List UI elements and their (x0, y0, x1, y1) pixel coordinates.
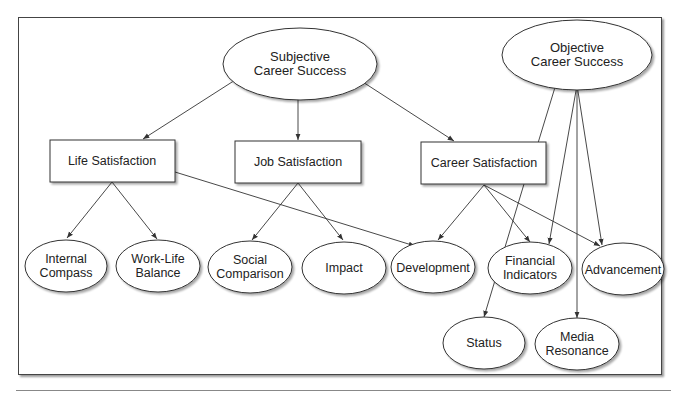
label-line: Career Success (531, 55, 623, 69)
edge-career-advancement (484, 185, 600, 246)
label-line: Comparison (216, 267, 283, 281)
label-work-life-balance: Work-Life Balance (131, 252, 184, 280)
label-social-comparison: Social Comparison (216, 253, 283, 281)
edge-job-social (252, 183, 298, 240)
label-line: Media (545, 330, 608, 344)
label-job-satisfaction: Job Satisfaction (254, 155, 342, 169)
edge-subjective-life (143, 75, 243, 139)
label-media-resonance: Media Resonance (545, 330, 608, 358)
label-subjective-career-success: Subjective Career Success (254, 50, 346, 78)
label-line: Internal (40, 252, 93, 266)
edge-career-development (438, 185, 484, 240)
edge-life-internal (67, 182, 112, 238)
edge-objective-financial (549, 85, 577, 244)
edge-objective-status-a (538, 84, 556, 143)
label-life-satisfaction: Life Satisfaction (68, 154, 156, 168)
label-line: Work-Life (131, 252, 184, 266)
label-financial-indicators: Financial Indicators (503, 254, 557, 282)
label-line: Indicators (503, 268, 557, 282)
edge-subjective-career (352, 75, 454, 141)
label-advancement: Advancement (585, 263, 661, 277)
label-status: Status (466, 336, 501, 350)
label-line: Career Success (254, 64, 346, 78)
label-objective-career-success: Objective Career Success (531, 41, 623, 69)
label-line: Financial (503, 254, 557, 268)
page-rule (16, 390, 671, 391)
edge-life-worklife (112, 182, 157, 239)
label-line: Compass (40, 266, 93, 280)
edge-career-financial (484, 185, 530, 242)
label-internal-compass: Internal Compass (40, 252, 93, 280)
label-line: Subjective (254, 50, 346, 64)
label-line: Resonance (545, 344, 608, 358)
label-impact: Impact (325, 261, 363, 275)
label-career-satisfaction: Career Satisfaction (431, 156, 537, 170)
label-line: Balance (131, 266, 184, 280)
edge-job-impact (298, 183, 343, 240)
label-development: Development (396, 261, 470, 275)
label-line: Objective (531, 41, 623, 55)
label-line: Social (216, 253, 283, 267)
edge-objective-advancement (577, 85, 602, 245)
